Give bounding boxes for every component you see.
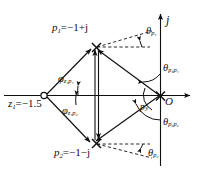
vector-p3-to-p2 bbox=[96, 96, 159, 141]
pole-label-p1: p1=−1+j bbox=[52, 22, 88, 34]
angle-arc-theta-p2 bbox=[141, 144, 143, 148]
vector-p3-to-p1 bbox=[98, 50, 159, 95]
axis-label-j: j bbox=[166, 14, 169, 26]
angle-label-theta-p2: θp₂ bbox=[148, 148, 158, 159]
angle-label-theta-p3p2: θp₃p₂ bbox=[163, 117, 179, 128]
pole-label-p3: p3 bbox=[140, 103, 148, 113]
vector-z1-to-p1 bbox=[46, 49, 91, 95]
angle-arc-theta-p1 bbox=[140, 41, 142, 47]
vector-z1-to-p2 bbox=[46, 96, 90, 142]
origin-label: O bbox=[165, 96, 173, 107]
dashed-reference-p2 bbox=[97, 144, 152, 158]
pole-marker-p1 bbox=[92, 43, 101, 52]
angle-label-theta-p3p1: θp₃p₁ bbox=[163, 63, 179, 74]
zero-label-z1: z1=−1.5 bbox=[8, 98, 42, 110]
angle-arc-theta-p3p1 bbox=[143, 74, 161, 83]
angle-label-theta-p1: θp₁ bbox=[146, 26, 156, 37]
angle-label-phi-z1p1: φz₁p₁ bbox=[58, 74, 74, 85]
pole-zero-figure: p1=−1+j p2=−1−j z1=−1.5 j O p3 θp₁ θp₂ φ… bbox=[0, 0, 197, 172]
pole-label-p2: p2=−1−j bbox=[54, 147, 90, 159]
dashed-reference-p1 bbox=[97, 31, 152, 47]
angle-label-phi-z1p2: φz₁p₂ bbox=[62, 106, 78, 117]
